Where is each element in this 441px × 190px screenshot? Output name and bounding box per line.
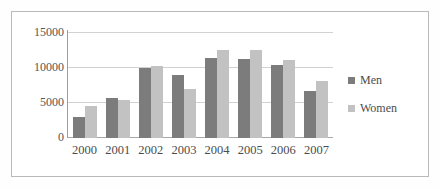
x-axis-label-2000: 2000 (68, 143, 101, 158)
y-axis-label-0: 0 (14, 131, 64, 143)
bar-group-2004 (201, 32, 234, 138)
bar-group-2006 (267, 32, 300, 138)
bar-men-2004[interactable] (205, 58, 217, 138)
bar-group-2002 (134, 32, 167, 138)
legend-label-women: Women (360, 101, 397, 116)
bar-women-2006[interactable] (283, 60, 295, 138)
bar-men-2006[interactable] (271, 65, 283, 138)
bar-men-2000[interactable] (73, 117, 85, 138)
bar-women-2005[interactable] (250, 50, 262, 138)
bar-group-2005 (234, 32, 267, 138)
bar-women-2002[interactable] (151, 66, 163, 138)
bar-men-2007[interactable] (304, 91, 316, 138)
bar-men-2003[interactable] (172, 75, 184, 138)
bar-group-2000 (68, 32, 101, 138)
bar-men-2005[interactable] (238, 59, 250, 139)
bar-women-2007[interactable] (316, 81, 328, 138)
bar-group-2003 (167, 32, 200, 138)
y-axis-label-10000: 10000 (14, 61, 64, 73)
legend-label-men: Men (360, 73, 382, 88)
y-axis-label-5000: 5000 (14, 96, 64, 108)
y-axis-label-15000: 15000 (14, 26, 64, 38)
bar-group-2001 (101, 32, 134, 138)
x-axis-label-2002: 2002 (134, 143, 167, 158)
legend-swatch-men (348, 77, 355, 84)
bar-men-2001[interactable] (106, 98, 118, 138)
bar-women-2003[interactable] (184, 89, 196, 138)
y-axis-labels: 15000 10000 5000 0 (14, 26, 64, 144)
x-axis-label-2003: 2003 (167, 143, 200, 158)
plot-area (68, 32, 333, 138)
x-axis-labels: 2000 2001 2002 2003 2004 2005 2006 2007 (68, 143, 333, 158)
chart-legend: Men Women (348, 73, 424, 129)
bar-women-2000[interactable] (85, 106, 97, 138)
legend-swatch-women (348, 105, 355, 112)
bar-group-2007 (300, 32, 333, 138)
x-axis-label-2001: 2001 (101, 143, 134, 158)
bars-layer (68, 32, 333, 138)
bar-chart-figure: 15000 10000 5000 0 (0, 0, 441, 190)
x-axis-label-2007: 2007 (300, 143, 333, 158)
x-axis-label-2004: 2004 (201, 143, 234, 158)
x-axis-label-2006: 2006 (267, 143, 300, 158)
legend-entry-men[interactable]: Men (348, 73, 424, 88)
legend-entry-women[interactable]: Women (348, 101, 424, 116)
x-axis-label-2005: 2005 (234, 143, 267, 158)
bar-women-2001[interactable] (118, 100, 130, 138)
bar-women-2004[interactable] (217, 50, 229, 138)
bar-men-2002[interactable] (139, 68, 151, 138)
